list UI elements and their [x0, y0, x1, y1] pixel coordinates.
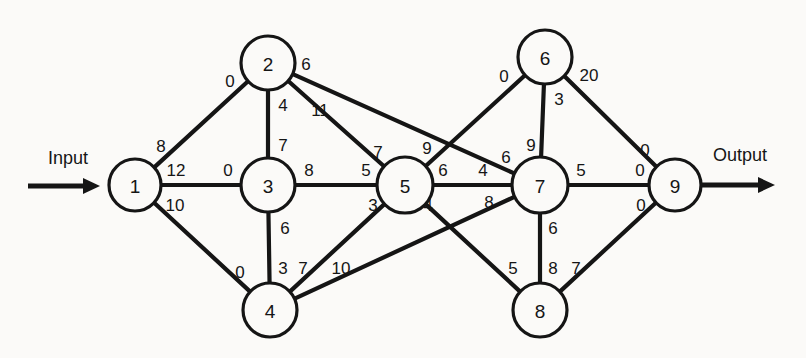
node-4-label: 4: [265, 301, 276, 322]
edge-6-9-to-label: 0: [640, 141, 649, 160]
edge-2-7-to-label: 6: [501, 148, 510, 167]
edge-6-7-to-label: 9: [526, 136, 535, 155]
edge-5-7-from-label: 6: [438, 161, 447, 180]
edge-6-7: [541, 83, 544, 158]
edge-2-5-from-label: 11: [311, 101, 329, 120]
edge-5-6-to-label: 0: [499, 67, 508, 86]
node-1[interactable]: 1: [109, 159, 161, 211]
node-8-label: 8: [535, 301, 546, 322]
edge-3-4: [268, 211, 269, 284]
node-9-label: 9: [670, 176, 681, 197]
node-1-label: 1: [130, 176, 141, 197]
edge-3-4-from-label: 6: [280, 219, 289, 238]
edge-5-8-from-label: 4: [423, 196, 432, 215]
edge-3-4-to-label: 3: [278, 259, 287, 278]
edge-8-9-from-label: 7: [571, 259, 580, 278]
edge-1-4-from-label: 10: [166, 196, 185, 215]
node-6[interactable]: 6: [518, 30, 572, 84]
input-arrow-head-icon: [83, 178, 100, 194]
node-7[interactable]: 7: [512, 157, 568, 213]
edge-4-5-to-label: 3: [368, 196, 377, 215]
edge-4-7-to-label: 8: [484, 193, 493, 212]
edge-1-2: [153, 81, 248, 169]
edge-2-7-from-label: 6: [301, 55, 310, 74]
node-3-label: 3: [263, 176, 274, 197]
edge-6-9-from-label: 20: [580, 66, 599, 85]
edge-3-5-to-label: 5: [361, 161, 370, 180]
edge-7-8-to-label: 8: [548, 259, 557, 278]
node-4[interactable]: 4: [243, 283, 297, 337]
output-arrow-head-icon: [758, 177, 775, 193]
node-6-label: 6: [540, 48, 551, 69]
edge-1-4-to-label: 0: [235, 263, 244, 282]
edge-1-3-to-label: 0: [223, 161, 232, 180]
edge-1-2-to-label: 0: [225, 72, 234, 91]
network-graph: 123456789 801201004711766856373108906445…: [0, 0, 806, 358]
edge-5-8-to-label: 5: [508, 259, 517, 278]
edge-7-8-from-label: 6: [548, 219, 557, 238]
edge-7-9-to-label: 0: [635, 161, 644, 180]
edge-2-3-to-label: 7: [278, 136, 287, 155]
network-diagram-canvas: 123456789 801201004711766856373108906445…: [0, 0, 806, 358]
edge-1-3-from-label: 12: [167, 161, 186, 180]
edge-4-5-from-label: 7: [298, 259, 307, 278]
node-7-label: 7: [535, 176, 546, 197]
node-5-label: 5: [400, 176, 411, 197]
edge-5-6-from-label: 9: [422, 139, 431, 158]
edge-8-9: [559, 202, 657, 292]
edge-8-9-to-label: 0: [636, 196, 645, 215]
input-label: Input: [48, 148, 88, 168]
edge-2-5-to-label: 7: [373, 143, 382, 162]
node-3[interactable]: 3: [241, 158, 295, 212]
output-label: Output: [713, 145, 767, 165]
edge-2-3-from-label: 4: [278, 96, 287, 115]
edge-4-7-from-label: 10: [332, 259, 351, 278]
edge-1-2-from-label: 8: [156, 137, 165, 156]
edge-7-9-from-label: 5: [576, 161, 585, 180]
node-2[interactable]: 2: [241, 36, 295, 90]
node-9[interactable]: 9: [649, 159, 701, 211]
edge-6-7-from-label: 3: [554, 90, 563, 109]
edge-3-5-from-label: 8: [304, 161, 313, 180]
node-8[interactable]: 8: [513, 283, 567, 337]
node-2-label: 2: [263, 54, 274, 75]
edge-5-7-to-label: 4: [478, 161, 487, 180]
